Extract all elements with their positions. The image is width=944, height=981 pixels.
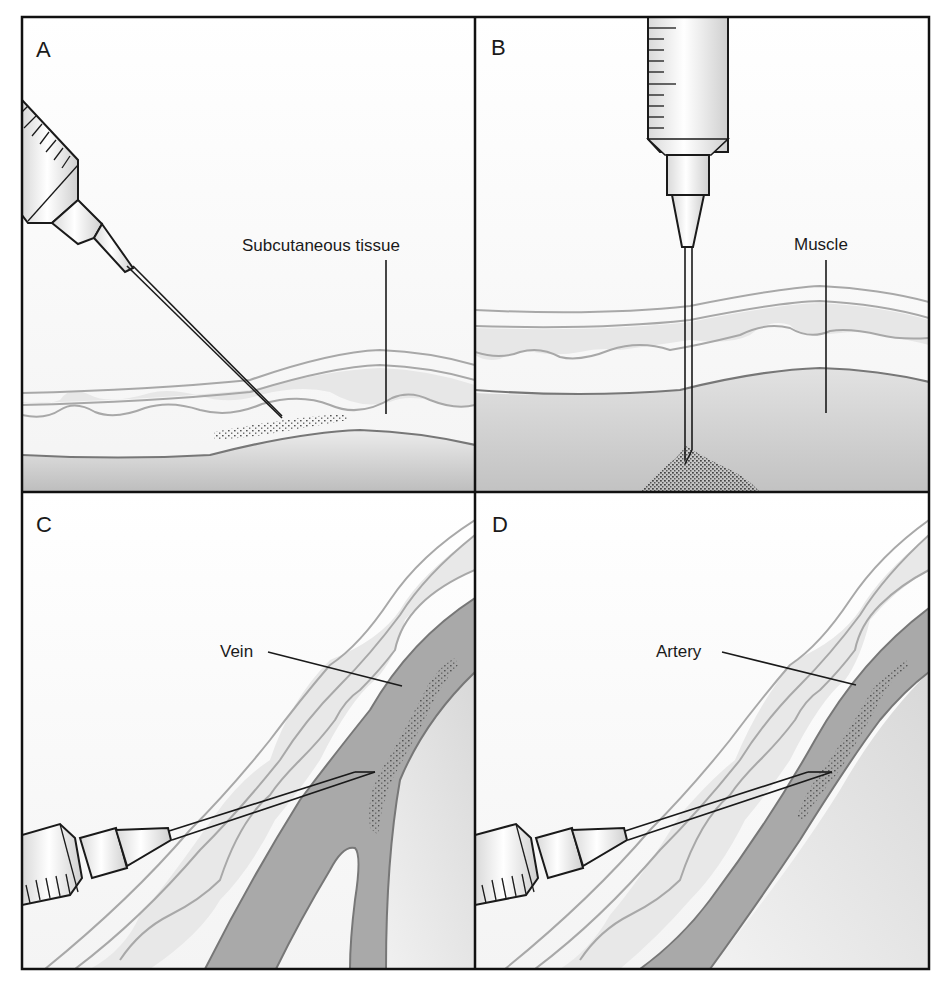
label-subcutaneous-tissue: Subcutaneous tissue: [242, 236, 400, 255]
panel-letter-d: D: [492, 512, 508, 537]
panel-letter-c: C: [36, 512, 52, 537]
label-vein: Vein: [220, 642, 253, 661]
panel-d: D Artery: [475, 492, 929, 969]
panel-letter-a: A: [36, 37, 51, 62]
panel-letter-b: B: [491, 35, 506, 60]
panel-a: A Subcutaneous tissue: [22, 17, 475, 492]
label-muscle: Muscle: [794, 235, 848, 254]
panel-b: B Muscle: [475, 17, 929, 492]
label-artery: Artery: [656, 642, 702, 661]
injection-routes-figure: A Subcutaneous tissue: [0, 0, 944, 981]
panel-c: C Vein: [22, 492, 475, 969]
